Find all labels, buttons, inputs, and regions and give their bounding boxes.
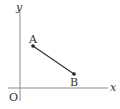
x-axis-label: x <box>110 81 117 94</box>
segment-ab <box>33 46 74 74</box>
point-a-label: A <box>28 33 38 46</box>
origin-label: O <box>9 91 18 104</box>
point-b-label: B <box>70 76 78 89</box>
coordinate-diagram: y x O A B <box>0 0 120 109</box>
y-axis-label: y <box>15 1 23 14</box>
